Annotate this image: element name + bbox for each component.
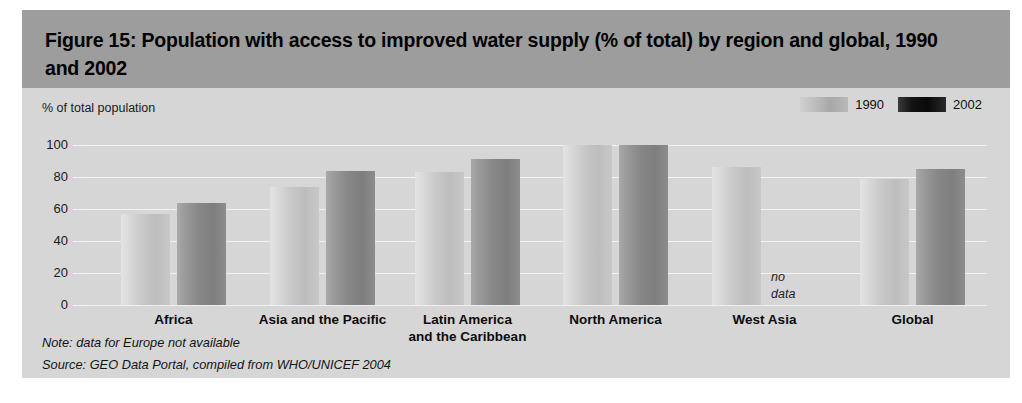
- figure-title: Figure 15: Population with access to imp…: [45, 26, 975, 82]
- y-tick-label-80: 80: [32, 169, 68, 184]
- bar-1990-3[interactable]: [563, 145, 612, 305]
- chart-body: % of total population 1990 2002 02040608…: [22, 88, 1010, 378]
- figure-header-band: Figure 15: Population with access to imp…: [22, 10, 1010, 88]
- y-tick-label-100: 100: [32, 137, 68, 152]
- gridline-100: [85, 145, 987, 146]
- chart-legend: 1990 2002: [800, 97, 982, 112]
- series-2002-swatch-icon: [898, 97, 946, 112]
- no-data-line-2: data: [771, 286, 827, 303]
- bar-2002-2[interactable]: [471, 159, 520, 305]
- x-axis-label-line: and the Caribbean: [370, 328, 565, 345]
- y-tick-mark-0: [73, 305, 85, 306]
- series-1990-swatch-icon: [800, 97, 848, 112]
- y-tick-mark-80: [73, 177, 85, 178]
- bar-1990-0[interactable]: [121, 214, 170, 305]
- y-axis: 020406080100: [32, 145, 85, 305]
- figure-container: Figure 15: Population with access to imp…: [22, 10, 1010, 378]
- y-tick-mark-20: [73, 273, 85, 274]
- bar-1990-4[interactable]: [712, 167, 761, 305]
- bar-2002-3[interactable]: [619, 145, 668, 305]
- figure-note: Note: data for Europe not available: [42, 335, 240, 350]
- bar-2002-1[interactable]: [326, 171, 375, 305]
- gridline-80: [85, 177, 987, 178]
- y-tick-mark-40: [73, 241, 85, 242]
- y-tick-mark-60: [73, 209, 85, 210]
- plot-area: AfricaAsia and the PacificLatin Americaa…: [85, 145, 987, 305]
- bar-1990-1[interactable]: [270, 187, 319, 305]
- no-data-line-1: no: [771, 269, 827, 286]
- bar-2002-5[interactable]: [916, 169, 965, 305]
- y-tick-label-60: 60: [32, 201, 68, 216]
- gridline-0: [85, 305, 987, 306]
- legend-item-1990[interactable]: 1990: [800, 97, 884, 112]
- y-tick-label-40: 40: [32, 233, 68, 248]
- bar-2002-0[interactable]: [177, 203, 226, 305]
- legend-label-1990: 1990: [855, 97, 884, 112]
- bar-1990-2[interactable]: [415, 172, 464, 305]
- bar-1990-5[interactable]: [860, 179, 909, 305]
- legend-item-2002[interactable]: 2002: [898, 97, 982, 112]
- no-data-annotation: nodata: [768, 269, 827, 303]
- y-axis-title: % of total population: [42, 101, 155, 115]
- legend-label-2002: 2002: [953, 97, 982, 112]
- figure-source: Source: GEO Data Portal, compiled from W…: [42, 357, 391, 372]
- x-axis-label-line: Global: [815, 311, 1010, 328]
- x-axis-label-5: Global: [815, 311, 1010, 328]
- y-tick-label-20: 20: [32, 265, 68, 280]
- y-tick-label-0: 0: [32, 297, 68, 312]
- y-tick-mark-100: [73, 145, 85, 146]
